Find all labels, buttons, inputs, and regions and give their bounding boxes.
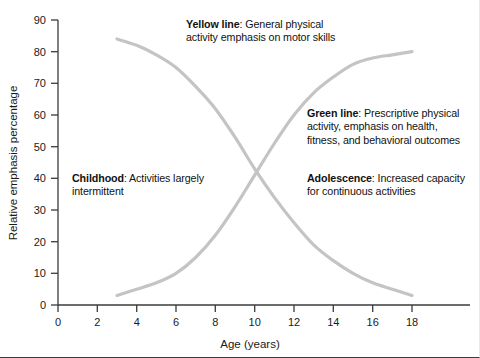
y-tick-label: 90 <box>34 14 46 26</box>
y-tick-label: 10 <box>34 267 46 279</box>
y-axis-ticks <box>51 20 58 305</box>
y-tick-label: 60 <box>34 109 46 121</box>
series-line-yellow-line <box>117 39 412 296</box>
y-tick-label: 40 <box>34 172 46 184</box>
y-tick-label: 50 <box>34 141 46 153</box>
y-tick-label: 0 <box>40 299 46 311</box>
annotation-childhood-title: Childhood <box>72 172 124 184</box>
x-axis-tick-labels: 0 2 4 6 8 10 12 14 16 18 <box>55 316 418 328</box>
annotation-green-line-title: Green line <box>307 107 358 119</box>
annotation-yellow-line: Yellow line: General physical activity e… <box>186 18 346 45</box>
x-tick-label: 16 <box>367 316 379 328</box>
annotation-childhood: Childhood: Activities largely intermitte… <box>72 172 248 199</box>
x-tick-label: 12 <box>288 316 300 328</box>
x-tick-label: 10 <box>249 316 261 328</box>
x-tick-label: 0 <box>55 316 61 328</box>
x-tick-label: 6 <box>173 316 179 328</box>
x-axis-title: Age (years) <box>220 338 280 350</box>
annotation-adolescence-title: Adolescence <box>307 172 372 184</box>
x-tick-label: 18 <box>406 316 418 328</box>
y-tick-label: 20 <box>34 236 46 248</box>
chart-figure: 90 80 70 60 50 40 30 20 10 0 0 2 <box>0 0 480 358</box>
annotation-adolescence: Adolescence: Increased capacity for cont… <box>307 172 469 199</box>
x-axis-ticks <box>58 305 412 312</box>
y-tick-label: 70 <box>34 77 46 89</box>
chart-series-layer <box>117 39 412 296</box>
y-tick-label: 80 <box>34 46 46 58</box>
annotation-yellow-line-title: Yellow line <box>186 18 240 30</box>
annotation-green-line: Green line: Prescriptive physical activi… <box>307 107 473 147</box>
x-tick-label: 14 <box>327 316 339 328</box>
y-tick-label: 30 <box>34 204 46 216</box>
x-tick-label: 2 <box>94 316 100 328</box>
y-axis-tick-labels: 90 80 70 60 50 40 30 20 10 0 <box>34 14 46 311</box>
x-tick-label: 8 <box>212 316 218 328</box>
x-tick-label: 4 <box>134 316 140 328</box>
y-axis-title: Relative emphasis percentage <box>7 86 19 241</box>
